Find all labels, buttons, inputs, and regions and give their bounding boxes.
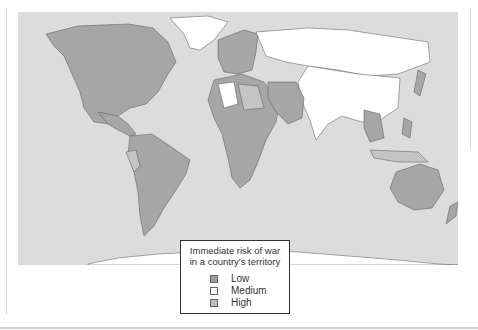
frame-bottom-rule	[0, 327, 478, 329]
world-map	[18, 12, 458, 265]
legend-title-line1: Immediate risk of war	[181, 245, 289, 256]
legend-label-low: Low	[231, 273, 249, 285]
legend-title-line2: in a country's territory	[181, 256, 289, 267]
swatch-low	[210, 275, 218, 283]
map-legend: Immediate risk of war in a country's ter…	[180, 240, 290, 314]
legend-title: Immediate risk of war in a country's ter…	[181, 245, 289, 267]
north-america	[46, 24, 176, 124]
swatch-medium	[210, 287, 218, 295]
legend-item-medium: Medium	[210, 285, 267, 297]
japan	[414, 70, 426, 96]
frame-right-rule	[470, 8, 471, 150]
central-america	[98, 112, 136, 136]
russia	[256, 28, 430, 76]
legend-item-low: Low	[210, 273, 249, 285]
australia	[390, 164, 444, 210]
china-india	[298, 66, 400, 140]
new-zealand	[446, 202, 458, 224]
europe	[218, 30, 258, 74]
legend-item-high: High	[210, 297, 252, 309]
legend-label-medium: Medium	[231, 285, 267, 297]
legend-label-high: High	[231, 297, 252, 309]
frame-left-rule	[6, 8, 7, 314]
indonesia	[370, 150, 428, 162]
philippines	[402, 118, 412, 138]
world-map-graphic	[18, 12, 458, 265]
swatch-high	[210, 299, 218, 307]
south-america	[128, 134, 190, 236]
